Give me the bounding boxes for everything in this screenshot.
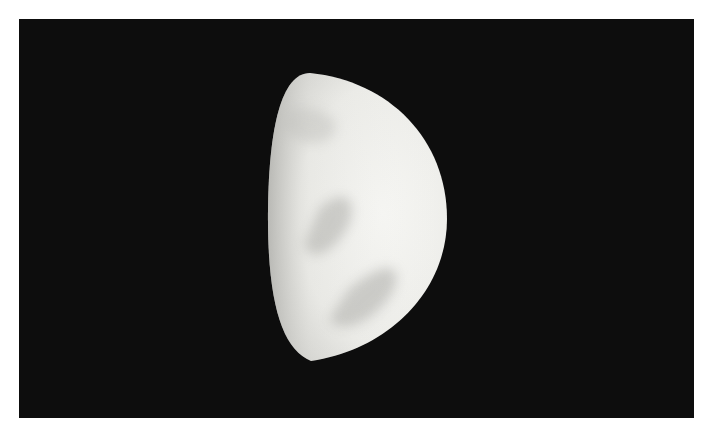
venus-planet (19, 19, 694, 418)
night-sky-background (19, 19, 694, 418)
